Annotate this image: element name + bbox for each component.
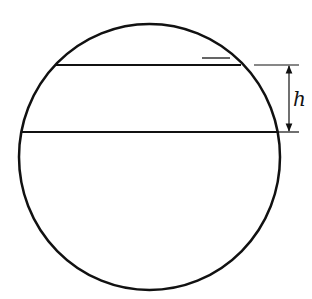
height-label: h — [293, 87, 306, 111]
sphere-diagram: h — [0, 0, 312, 299]
